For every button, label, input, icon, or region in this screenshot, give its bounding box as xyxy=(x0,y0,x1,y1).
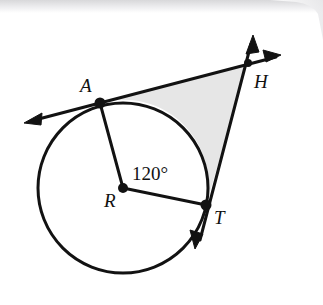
geometry-figure-container: A H R T 120° xyxy=(0,0,323,305)
label-central-angle: 120° xyxy=(132,163,168,184)
point-dot-h xyxy=(244,59,252,67)
label-point-a: A xyxy=(78,75,92,96)
scan-top-edge xyxy=(0,0,323,13)
label-point-t: T xyxy=(214,207,226,228)
label-point-h: H xyxy=(253,71,269,92)
point-dot-a xyxy=(95,98,106,109)
point-dot-t xyxy=(201,200,212,211)
point-dot-r xyxy=(118,183,128,193)
page-background xyxy=(0,0,323,305)
label-point-r: R xyxy=(103,190,116,211)
geometry-diagram: A H R T 120° xyxy=(0,0,323,305)
